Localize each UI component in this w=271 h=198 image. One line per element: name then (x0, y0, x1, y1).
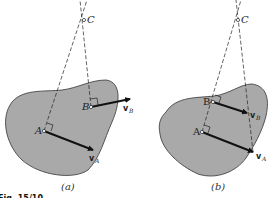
point-a-a (42, 129, 45, 132)
label-vb-sub: B (128, 107, 134, 114)
panel-label-a: (a) (61, 181, 75, 192)
point-c-b (236, 18, 239, 21)
label-a: A (34, 125, 42, 136)
figure-canvas: C A B v A v B (a) C A B v A v B (b) Fig.… (0, 0, 271, 198)
label-va-sub: A (94, 157, 100, 164)
panel-b: C A B v A v B (b) (159, 0, 267, 192)
rigid-body-b (159, 84, 267, 176)
point-b-b (211, 100, 214, 103)
panel-a: C A B v A v B (a) (6, 0, 134, 192)
label-va-sub: A (261, 155, 267, 162)
panel-label-b: (b) (211, 181, 225, 192)
label-vb-sub: B (255, 114, 261, 121)
figure-caption: Fig. 15/10 (0, 194, 43, 198)
label-b: B (81, 101, 89, 112)
label-c: C (241, 14, 249, 25)
point-c-a (82, 18, 85, 21)
label-a: A (192, 126, 201, 137)
point-b-a (89, 105, 92, 108)
point-a-b (200, 130, 203, 133)
label-b: B (203, 96, 210, 107)
rigid-body-a (6, 80, 119, 175)
label-c: C (87, 14, 95, 25)
